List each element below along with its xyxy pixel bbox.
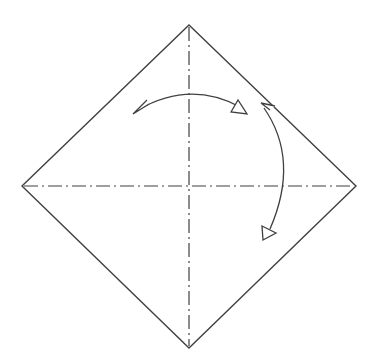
origami-diagram	[0, 0, 379, 354]
diagram-svg	[0, 0, 379, 354]
